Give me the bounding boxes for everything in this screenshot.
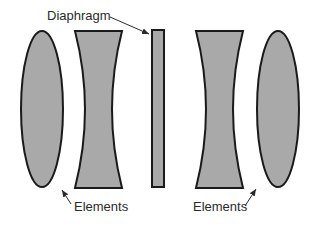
left-convex-element — [21, 31, 63, 187]
elements-left-label: Elements — [74, 199, 129, 214]
right-convex-element — [257, 31, 299, 187]
right-concave-element — [196, 31, 243, 188]
diaphragm-plate — [152, 30, 164, 187]
elements-right-label: Elements — [193, 199, 248, 214]
elements-left-arrow-icon — [62, 190, 71, 204]
elements-right-arrow-icon — [245, 189, 256, 206]
diaphragm-label: Diaphragm — [47, 8, 111, 23]
lens-diagram: Diaphragm Elements Elements — [0, 0, 313, 226]
left-concave-element — [75, 31, 122, 188]
